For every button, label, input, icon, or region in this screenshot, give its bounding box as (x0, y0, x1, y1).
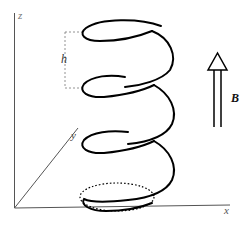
x-axis-label: x (224, 205, 229, 216)
helix (82, 20, 174, 211)
z-axis-label: z (18, 10, 22, 21)
field-label: B (231, 92, 239, 104)
y-axis (15, 128, 79, 208)
x-axis (15, 205, 231, 208)
magnetic-field-arrow-icon (208, 53, 227, 127)
axes (15, 13, 231, 208)
y-axis-label: y (71, 130, 76, 141)
pitch-bracket (65, 32, 82, 88)
helix-diagram: z y x h B (0, 0, 246, 231)
pitch-label: h (61, 53, 67, 65)
